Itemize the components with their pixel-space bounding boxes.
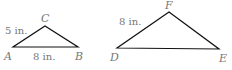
vertex-label-a: A — [3, 50, 12, 63]
vertex-label-e: E — [218, 52, 227, 65]
vertex-label-f: F — [164, 0, 173, 12]
vertex-label-d: D — [109, 51, 119, 64]
similar-triangles-figure: C 5 in. A 8 in. B F 8 in. D E — [0, 0, 232, 70]
triangle-abc: C 5 in. A 8 in. B — [3, 12, 83, 63]
side-label-ab: 8 in. — [33, 51, 55, 62]
triangle-def: F 8 in. D E — [109, 0, 227, 65]
side-label-ac: 5 in. — [5, 25, 27, 36]
vertex-label-c: C — [41, 12, 50, 25]
vertex-label-b: B — [74, 50, 83, 63]
side-label-df: 8 in. — [119, 16, 141, 27]
